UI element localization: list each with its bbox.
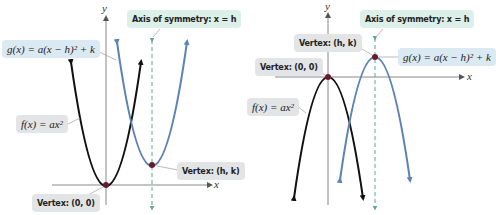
left-g-function-label: g(x) = a(x − h)² + k [2,40,100,58]
right-axis-leader [376,29,383,37]
right-x-axis-label: x [467,70,472,82]
left-vertex-hk-label: Vertex: (h, k) [177,162,245,180]
left-y-axis-label: y [102,2,107,14]
right-vertex-hk-label: Vertex: (h, k) [294,34,362,52]
left-vertex-hk-dot [149,162,155,168]
left-f-leader [68,118,80,124]
left-f-function-label: f(x) = ax² [16,115,68,133]
right-vertex-origin-label: Vertex: (0, 0) [255,58,323,76]
left-axis-leader [153,29,160,37]
right-g-function-label: g(x) = a(x − h)² + k [398,48,496,66]
left-vertex-hk-leader [157,166,178,170]
left-vertex-origin-label: Vertex: (0, 0) [32,194,100,212]
right-axis-of-symmetry-label: Axis of symmetry: x = h [360,10,474,28]
right-vertex-hk-dot [372,54,378,60]
left-vertex-origin-dot [103,182,109,188]
right-f-function-label: f(x) = ax² [247,98,299,116]
right-vertex-origin-dot [325,74,331,80]
left-axis-of-symmetry-label: Axis of symmetry: x = h [127,10,241,28]
right-y-axis-label: y [325,0,330,12]
